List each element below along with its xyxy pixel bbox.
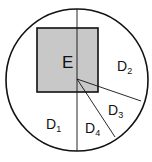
region-diagram: E D1 D2 D3 D4 <box>0 0 152 162</box>
label-e: E <box>62 53 73 72</box>
diagram-canvas: E D1 D2 D3 D4 <box>0 0 152 162</box>
